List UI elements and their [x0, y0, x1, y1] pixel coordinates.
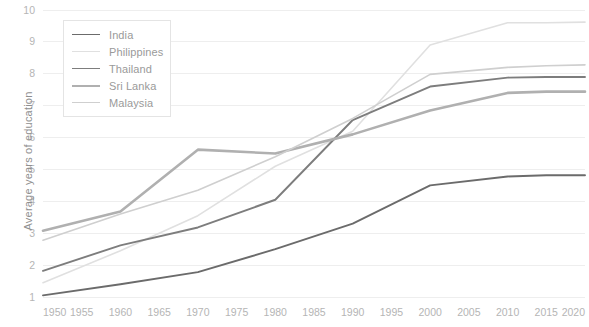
x-tick-label: 1990 — [341, 306, 365, 318]
series-line-india — [43, 175, 585, 295]
x-tick-label: 2015 — [535, 306, 559, 318]
y-tick-label: 10 — [23, 4, 35, 16]
line-chart: 12345678910 1950195519601965197019751980… — [0, 0, 589, 327]
x-tick-label: 1995 — [380, 306, 404, 318]
legend-item-malaysia[interactable]: Malaysia — [72, 94, 160, 111]
legend-label: India — [109, 29, 133, 41]
y-tick-label: 1 — [29, 291, 35, 303]
x-tick-label: 1965 — [147, 306, 171, 318]
legend-item-philippines[interactable]: Philippines — [72, 43, 160, 60]
legend-swatch-icon — [72, 51, 100, 52]
legend-item-india[interactable]: India — [72, 26, 160, 43]
x-tick-label: 2010 — [496, 306, 520, 318]
legend-item-thailand[interactable]: Thailand — [72, 60, 160, 77]
legend-label: Thailand — [109, 63, 152, 75]
x-tick-label: 1975 — [225, 306, 249, 318]
legend-swatch-icon — [72, 34, 100, 35]
x-tick-label: 1970 — [186, 306, 210, 318]
legend-label: Malaysia — [109, 97, 153, 109]
x-tick-label: 1950 — [43, 306, 67, 318]
y-axis-title: Average years of education — [22, 41, 34, 281]
legend: IndiaPhilippinesThailandSri LankaMalaysi… — [63, 20, 171, 117]
x-tick-label: 2020 — [562, 306, 586, 318]
legend-swatch-icon — [72, 68, 100, 69]
x-tick-label: 1980 — [264, 306, 288, 318]
legend-label: Sri Lanka — [109, 80, 156, 92]
x-tick-label: 1955 — [70, 306, 94, 318]
legend-label: Philippines — [109, 46, 163, 58]
legend-item-sri-lanka[interactable]: Sri Lanka — [72, 77, 160, 94]
legend-swatch-icon — [72, 85, 100, 87]
legend-swatch-icon — [72, 102, 100, 103]
x-tick-label: 2000 — [418, 306, 442, 318]
x-tick-label: 1985 — [302, 306, 326, 318]
x-axis-ticks: 1950195519601965197019751980198519901995… — [43, 306, 585, 318]
x-tick-label: 1960 — [109, 306, 133, 318]
x-tick-label: 2005 — [457, 306, 481, 318]
